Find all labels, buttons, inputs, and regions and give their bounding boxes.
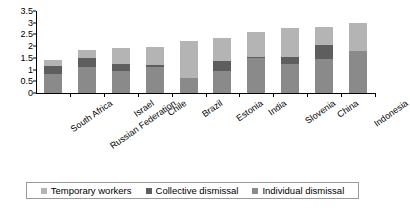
bar-group <box>315 27 333 93</box>
bar-segment-collective-dismissal <box>213 61 231 71</box>
bar-segment-temporary-workers <box>247 32 265 58</box>
bar-segment-temporary-workers <box>213 38 231 61</box>
y-tick-label: 1.5 <box>20 53 33 62</box>
bar-segment-individual-dismissal <box>315 59 333 93</box>
bar-segment-individual-dismissal <box>146 67 164 93</box>
bar-segment-temporary-workers <box>281 28 299 58</box>
legend-swatch <box>146 188 152 194</box>
y-tick-label: 2.5 <box>20 30 33 39</box>
x-axis-label: Brazil <box>200 98 224 119</box>
x-axis-label: Indonesia <box>372 98 410 129</box>
legend-label: Temporary workers <box>51 186 132 196</box>
legend-item: Collective dismissal <box>146 186 239 196</box>
bar-group <box>78 50 96 93</box>
bar-group <box>180 41 198 93</box>
x-axis-labels: South AfricaRussian FederationIsraelChil… <box>0 96 385 158</box>
x-axis-label: India <box>267 98 289 117</box>
bar-segment-individual-dismissal <box>180 78 198 93</box>
bar-group <box>281 28 299 93</box>
bar-segment-individual-dismissal <box>78 67 96 93</box>
legend-item: Temporary workers <box>41 186 132 196</box>
bar-segment-temporary-workers <box>146 47 164 65</box>
bar-segment-individual-dismissal <box>213 71 231 93</box>
x-axis-label: South Africa <box>69 98 114 134</box>
x-axis-label: Slovenia <box>303 98 337 126</box>
bar-group <box>146 47 164 93</box>
bar-segment-collective-dismissal <box>78 58 96 67</box>
y-tick-label: 3.5 <box>20 7 33 16</box>
legend-swatch <box>252 188 258 194</box>
legend-swatch <box>41 188 47 194</box>
legend-label: Individual dismissal <box>262 186 344 196</box>
bar-group <box>213 38 231 94</box>
y-tick-label: 0.5 <box>20 77 33 86</box>
bar-segment-individual-dismissal <box>112 71 130 93</box>
bar-segment-temporary-workers <box>78 50 96 57</box>
bar-group <box>247 32 265 93</box>
bar-group <box>112 48 130 93</box>
bar-segment-individual-dismissal <box>247 58 265 93</box>
bar-segment-temporary-workers <box>349 23 367 50</box>
bar-segment-temporary-workers <box>315 27 333 46</box>
chart-legend: Temporary workersCollective dismissalInd… <box>26 182 359 199</box>
bar-segment-collective-dismissal <box>112 64 130 71</box>
bar-segment-individual-dismissal <box>44 74 62 93</box>
bar-segment-temporary-workers <box>180 41 198 77</box>
x-axis-label: China <box>335 98 360 120</box>
legend-label: Collective dismissal <box>156 186 239 196</box>
bar-segment-collective-dismissal <box>44 66 62 74</box>
bar-segment-individual-dismissal <box>281 64 299 93</box>
bar-group <box>44 60 62 93</box>
legend-item: Individual dismissal <box>252 186 344 196</box>
bar-series-container <box>36 11 375 93</box>
bar-group <box>349 23 367 93</box>
bar-segment-collective-dismissal <box>315 45 333 59</box>
bar-segment-temporary-workers <box>112 48 130 64</box>
x-axis-label: Estonia <box>235 98 265 123</box>
bar-segment-individual-dismissal <box>349 51 367 93</box>
